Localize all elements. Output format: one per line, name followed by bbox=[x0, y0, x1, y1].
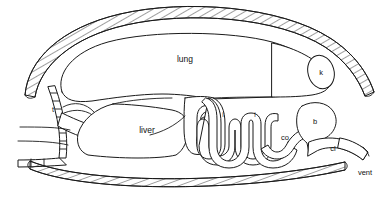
diagram-canvas: lung k bbox=[0, 0, 385, 197]
label-bladder: b bbox=[313, 117, 317, 126]
anatomy-figure: lung k bbox=[0, 0, 385, 197]
label-cloaca: cl bbox=[330, 144, 336, 153]
organ-cloaca: cl bbox=[308, 138, 369, 160]
label-intestine-2: i bbox=[254, 111, 255, 118]
label-liver: liver bbox=[139, 125, 155, 135]
label-kidney: k bbox=[319, 68, 323, 77]
label-colon: co bbox=[281, 133, 289, 142]
label-intestine-1: i bbox=[222, 111, 223, 118]
label-lung: lung bbox=[177, 54, 193, 64]
organ-liver: liver bbox=[77, 104, 188, 158]
label-vent: vent bbox=[358, 168, 373, 177]
ventral-body-wall bbox=[28, 161, 348, 187]
